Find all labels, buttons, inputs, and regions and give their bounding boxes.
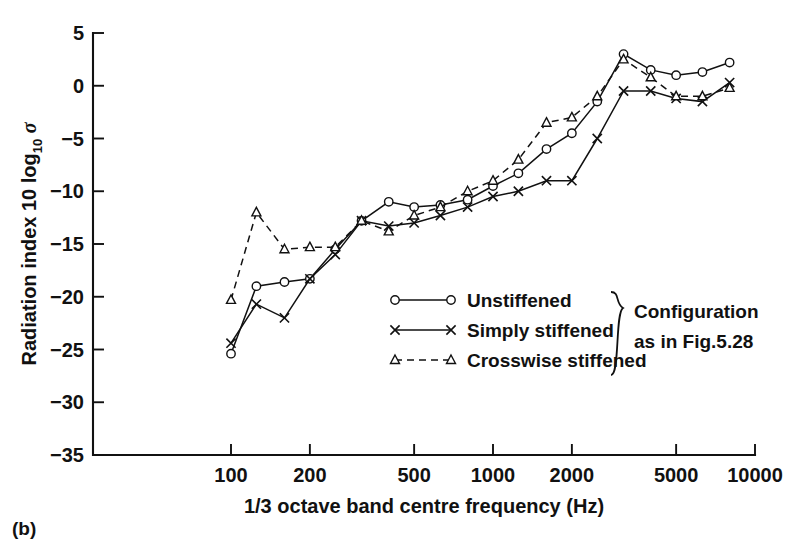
marker-triangle <box>252 207 261 216</box>
marker-cross <box>436 211 445 220</box>
chart-legend: UnstiffenedSimply stiffenedCrosswise sti… <box>390 290 646 371</box>
marker-circle <box>514 169 522 177</box>
axis-spines <box>93 33 755 455</box>
marker-circle <box>698 68 706 76</box>
marker-circle <box>568 129 576 137</box>
legend-note-line2: as in Fig.5.28 <box>634 331 753 352</box>
marker-triangle <box>542 118 551 127</box>
legend-item-unstiffened[interactable]: Unstiffened <box>391 290 572 311</box>
marker-triangle <box>567 112 576 121</box>
x-axis-title: 1/3 octave band centre frequency (Hz) <box>244 495 604 517</box>
x-tick-label: 200 <box>293 464 326 486</box>
marker-circle <box>280 278 288 286</box>
y-tick-label: −25 <box>50 339 84 361</box>
marker-cross <box>252 300 261 309</box>
x-tick-label: 100 <box>214 464 247 486</box>
y-axis-title-subscript: 10 <box>30 139 45 153</box>
legend-note-line1: Configuration <box>634 301 759 322</box>
marker-triangle <box>384 226 393 235</box>
marker-circle <box>385 198 393 206</box>
y-tick-label: −35 <box>50 444 84 466</box>
x-tick-label: 2000 <box>550 464 595 486</box>
series-crosswise-stiffened <box>227 54 735 303</box>
x-axis-ticks <box>231 444 755 455</box>
radiation-index-chart: 50−5−10−15−20−25−30−35 10020050010002000… <box>0 0 795 547</box>
legend-item-crosswise-stiffened[interactable]: Crosswise stiffened <box>391 350 647 371</box>
y-tick-label: −15 <box>50 233 84 255</box>
legend-item-label: Crosswise stiffened <box>467 350 647 371</box>
marker-circle <box>672 71 680 79</box>
y-axis-title: Radiation index 10 log10 σ <box>18 121 45 365</box>
x-tick-label: 5000 <box>654 464 699 486</box>
marker-cross <box>593 134 602 143</box>
x-tick-label: 10000 <box>727 464 783 486</box>
marker-triangle <box>305 242 314 251</box>
y-axis-ticks <box>93 33 104 455</box>
y-axis-tick-labels: 50−5−10−15−20−25−30−35 <box>50 22 84 466</box>
marker-circle <box>463 195 471 203</box>
y-axis-title-symbol: σ <box>18 121 40 133</box>
figure-container: 50−5−10−15−20−25−30−35 10020050010002000… <box>0 0 795 547</box>
x-tick-label: 500 <box>397 464 430 486</box>
y-tick-label: −30 <box>50 391 84 413</box>
legend-item-label: Unstiffened <box>467 290 572 311</box>
marker-circle <box>725 58 733 66</box>
y-tick-label: 5 <box>73 22 84 44</box>
y-axis-title-prefix: Radiation index 10 log <box>18 153 40 365</box>
marker-triangle <box>489 176 498 185</box>
y-tick-label: −20 <box>50 286 84 308</box>
marker-triangle <box>410 211 419 220</box>
marker-circle <box>542 145 550 153</box>
legend-item-label: Simply stiffened <box>467 320 614 341</box>
marker-cross <box>280 313 289 322</box>
legend-item-simply-stiffened[interactable]: Simply stiffened <box>390 320 613 341</box>
x-tick-label: 1000 <box>471 464 516 486</box>
y-tick-label: −5 <box>61 128 84 150</box>
marker-circle <box>391 296 399 304</box>
x-axis-tick-labels: 10020050010002000500010000 <box>214 464 783 486</box>
marker-triangle <box>463 186 472 195</box>
marker-circle <box>447 296 455 304</box>
panel-label: (b) <box>12 518 36 539</box>
y-tick-label: −10 <box>50 180 84 202</box>
y-tick-label: 0 <box>73 75 84 97</box>
marker-circle <box>227 350 235 358</box>
marker-circle <box>252 282 260 290</box>
marker-triangle <box>227 295 236 304</box>
